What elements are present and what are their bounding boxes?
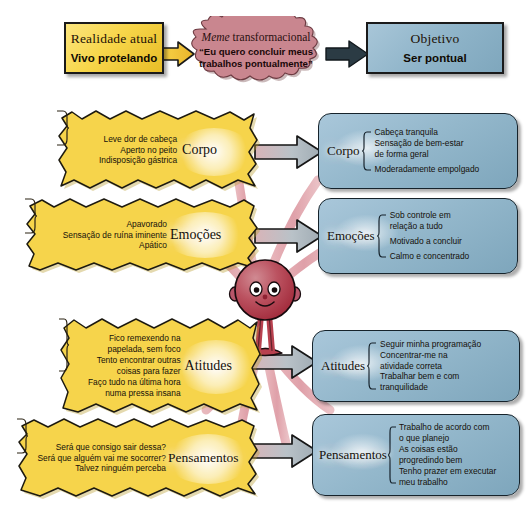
left-burst-corpo[interactable]: Leve dor de cabeça Aperto no peito Indis… bbox=[56, 108, 260, 192]
pensamentos-right-label: Pensamentos bbox=[319, 447, 387, 463]
right-panel-atitudes[interactable]: Atitudes Seguir minha programação Concen… bbox=[312, 330, 520, 402]
left-burst-emocoes[interactable]: Apavorado Sensação de ruína iminente Apá… bbox=[24, 196, 260, 274]
corpo-right-items: Cabeça tranquila Sensação de bem-estar d… bbox=[375, 127, 480, 176]
emocoes-right-label: Emoções bbox=[327, 228, 375, 244]
left-burst-atitudes[interactable]: Fico remexendo na papelada, sem foco Ten… bbox=[58, 316, 262, 416]
emocoes-right-items: Sob controle em relação a tudo Motivado … bbox=[390, 210, 470, 262]
brace-icon bbox=[377, 212, 387, 260]
brace-icon bbox=[367, 340, 377, 392]
right-panel-emocoes[interactable]: Emoções Sob controle em relação a tudo M… bbox=[318, 198, 518, 274]
burst-shape bbox=[24, 196, 260, 274]
brace-icon bbox=[388, 424, 397, 486]
burst-shape bbox=[58, 316, 262, 416]
cloud-shape bbox=[181, 16, 331, 84]
burst-shape bbox=[16, 416, 260, 500]
pensamentos-right-items: Trabalho de acordo com o que planejo As … bbox=[399, 422, 496, 488]
current-reality-box[interactable]: Realidade atual Vivo protelando bbox=[64, 22, 164, 74]
brace-icon bbox=[362, 129, 372, 173]
goal-box[interactable]: Objetivo Ser pontual bbox=[366, 22, 504, 74]
arrow-pensamentos bbox=[250, 435, 317, 467]
goal-value: Ser pontual bbox=[403, 52, 466, 65]
left-burst-pensamentos[interactable]: Será que consigo sair dessa? Será que al… bbox=[16, 416, 260, 500]
arrow-corpo bbox=[255, 136, 322, 168]
diagram-canvas: Realidade atual Vivo protelando Meme tra… bbox=[0, 0, 530, 520]
burst-shape bbox=[56, 108, 260, 192]
corpo-right-label: Corpo bbox=[327, 143, 360, 159]
right-panel-pensamentos[interactable]: Pensamentos Trabalho de acordo com o que… bbox=[312, 414, 520, 496]
current-reality-title: Realidade atual bbox=[71, 32, 158, 47]
right-panel-corpo[interactable]: Corpo Cabeça tranquila Sensação de bem-e… bbox=[318, 113, 518, 189]
meme-cloud[interactable]: Meme transformacional “Eu quero concluir… bbox=[181, 16, 331, 84]
current-reality-value: Vivo protelando bbox=[71, 52, 158, 65]
atitudes-right-items: Seguir minha programação Concentrar-me n… bbox=[380, 339, 481, 394]
arrow-meme-to-goal bbox=[326, 41, 368, 67]
atitudes-right-label: Atitudes bbox=[321, 358, 365, 374]
arrow-emocoes bbox=[255, 220, 322, 252]
goal-title: Objetivo bbox=[411, 32, 460, 47]
